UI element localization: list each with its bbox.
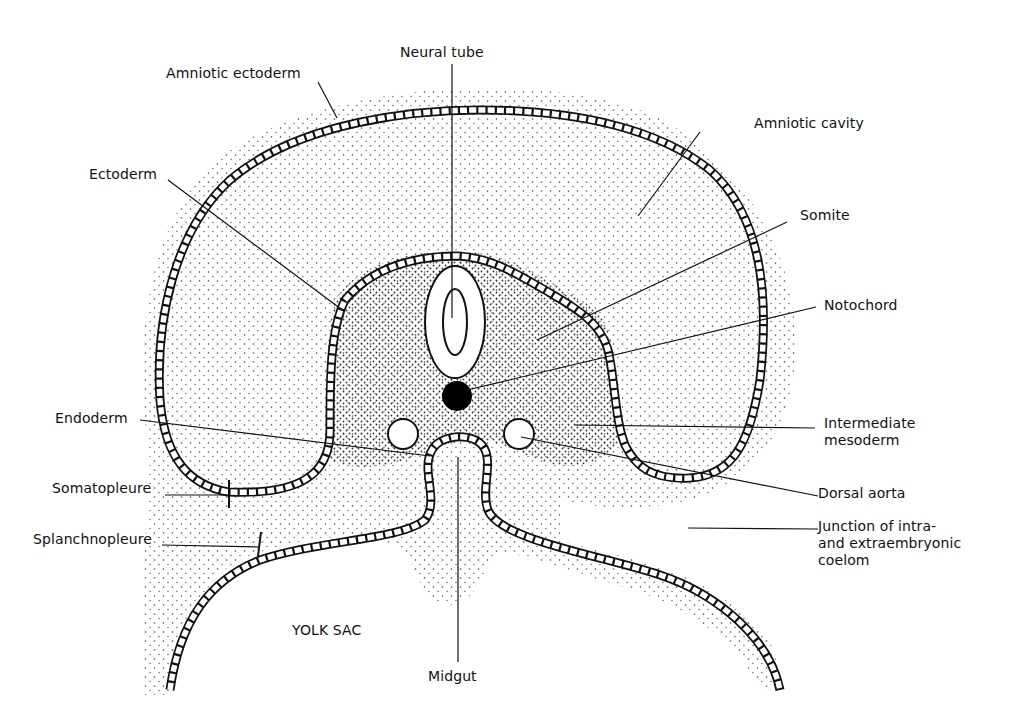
label-endoderm: Endoderm [55,410,128,427]
label-yolk-sac: YOLK SAC [292,622,361,639]
label-somatopleure: Somatopleure [52,480,151,497]
neural-tube-canal [443,289,467,355]
label-somite: Somite [800,207,850,224]
label-splanchnopleure: Splanchnopleure [33,531,152,548]
notochord-shape [442,381,472,411]
label-dorsal-aorta: Dorsal aorta [818,485,905,502]
dorsal-aorta-right [504,419,534,449]
label-intermediate-mesoderm: Intermediate mesoderm [824,415,916,449]
label-amniotic-cavity: Amniotic cavity [754,115,864,132]
label-notochord: Notochord [824,297,898,314]
label-midgut: Midgut [428,668,477,685]
embryo-cross-section-diagram [0,0,1016,728]
dorsal-aorta-left [388,419,418,449]
label-junction-coelom: Junction of intra- and extraembryonic co… [818,518,961,569]
label-neural-tube: Neural tube [400,44,484,61]
label-ectoderm: Ectoderm [89,166,157,183]
label-amniotic-ectoderm: Amniotic ectoderm [166,65,301,82]
